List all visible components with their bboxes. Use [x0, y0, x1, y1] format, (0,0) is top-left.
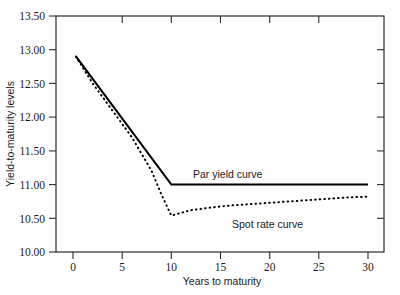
x-tick-label: 20 [264, 261, 276, 273]
y-axis-tick-labels: 10.00 10.50 11.00 11.50 12.00 12.50 13.0… [19, 10, 45, 258]
chart-figure: 10.00 10.50 11.00 11.50 12.00 12.50 13.0… [0, 0, 400, 295]
y-axis-title: Yield-to-maturity levels [4, 81, 16, 187]
y-tick-label: 12.00 [19, 111, 45, 123]
plot-frame [56, 16, 384, 252]
y-tick-label: 11.00 [20, 179, 46, 191]
x-tick-label: 0 [70, 261, 76, 273]
yield-curve-chart: 10.00 10.50 11.00 11.50 12.00 12.50 13.0… [0, 0, 400, 295]
spot-rate-curve-line [76, 56, 368, 215]
x-tick-label: 5 [119, 261, 125, 273]
x-tick-label: 15 [215, 261, 227, 273]
x-tick-label: 25 [313, 261, 325, 273]
x-axis-title: Years to maturity [183, 275, 262, 287]
x-axis-tick-labels: 0 5 10 15 20 25 30 [70, 261, 374, 273]
y-tick-label: 10.00 [19, 246, 45, 258]
par-yield-curve-label: Par yield curve [193, 168, 263, 180]
y-tick-label: 13.50 [19, 10, 45, 22]
y-tick-label: 10.50 [19, 213, 45, 225]
y-tick-label: 13.00 [19, 44, 45, 56]
x-axis-ticks [73, 252, 368, 259]
x-tick-label: 10 [166, 261, 178, 273]
y-tick-label: 12.50 [19, 78, 45, 90]
x-axis-top-ticks [122, 16, 319, 23]
y-axis-right-ticks [377, 50, 384, 219]
y-tick-label: 11.50 [20, 145, 46, 157]
y-axis-ticks [49, 16, 56, 252]
x-tick-label: 30 [362, 261, 374, 273]
spot-rate-curve-label: Spot rate curve [232, 218, 303, 230]
